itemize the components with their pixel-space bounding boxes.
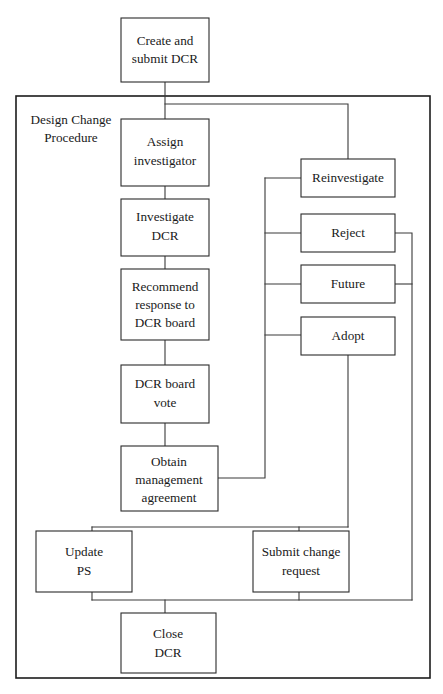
node-submit-change-request-label-line2: request [282, 563, 320, 578]
node-close-dcr-box[interactable] [121, 613, 216, 673]
connector-outcome-bus-right [395, 233, 412, 600]
node-update-ps[interactable]: Update PS [36, 531, 132, 592]
node-reject-label: Reject [331, 225, 365, 240]
node-assign-investigator-label-line2: investigator [134, 153, 197, 168]
node-investigate-dcr[interactable]: Investigate DCR [121, 199, 209, 256]
node-update-ps-box[interactable] [36, 531, 132, 592]
node-investigate-dcr-label-line2: DCR [151, 228, 178, 243]
node-adopt-label: Adopt [332, 328, 365, 343]
node-reject[interactable]: Reject [301, 214, 395, 252]
node-assign-investigator[interactable]: Assign investigator [121, 119, 209, 186]
node-create-submit-dcr[interactable]: Create and submit DCR [121, 18, 209, 82]
node-create-submit-dcr-box[interactable] [121, 18, 209, 82]
node-submit-change-request-label-line1: Submit change [262, 544, 341, 559]
flowchart-canvas: Create and submit DCR Design Change Proc… [0, 0, 443, 694]
node-dcr-board-vote-label-line2: vote [154, 395, 177, 410]
node-recommend-response-label-line1: Recommend [132, 279, 199, 294]
node-create-submit-dcr-label-line1: Create and [137, 33, 194, 48]
node-future-label: Future [331, 276, 366, 291]
connector-decision-bus-left [218, 178, 265, 478]
node-assign-investigator-label-line1: Assign [147, 134, 184, 149]
node-close-dcr-label-line1: Close [153, 626, 183, 641]
node-reinvestigate-label: Reinvestigate [312, 170, 384, 185]
node-close-dcr-label-line2: DCR [154, 645, 181, 660]
frame-label-line2: Procedure [44, 130, 98, 145]
node-obtain-management-label-line3: agreement [142, 490, 197, 505]
node-submit-change-request[interactable]: Submit change request [253, 531, 349, 592]
node-dcr-board-vote-label-line1: DCR board [135, 376, 196, 391]
node-update-ps-label-line2: PS [77, 563, 92, 578]
node-create-submit-dcr-label-line2: submit DCR [132, 51, 199, 66]
frame-label-line1: Design Change [31, 112, 112, 127]
node-submit-change-request-box[interactable] [253, 531, 349, 592]
node-obtain-management-agreement[interactable]: Obtain management agreement [121, 446, 218, 511]
node-adopt[interactable]: Adopt [301, 317, 395, 355]
node-close-dcr[interactable]: Close DCR [121, 613, 216, 673]
node-obtain-management-label-line1: Obtain [151, 454, 187, 469]
node-update-ps-label-line1: Update [65, 544, 103, 559]
node-obtain-management-label-line2: management [135, 472, 203, 487]
node-recommend-response[interactable]: Recommend response to DCR board [121, 269, 209, 340]
node-future[interactable]: Future [301, 265, 395, 303]
node-recommend-response-label-line3: DCR board [135, 315, 196, 330]
node-dcr-board-vote[interactable]: DCR board vote [121, 365, 209, 423]
node-reinvestigate[interactable]: Reinvestigate [301, 159, 395, 197]
design-change-procedure-label: Design Change Procedure [31, 112, 112, 145]
node-investigate-dcr-label-line1: Investigate [136, 209, 194, 224]
flowchart-diagram: Create and submit DCR Design Change Proc… [0, 0, 443, 694]
node-recommend-response-label-line2: response to [135, 297, 195, 312]
node-dcr-board-vote-box[interactable] [121, 365, 209, 423]
